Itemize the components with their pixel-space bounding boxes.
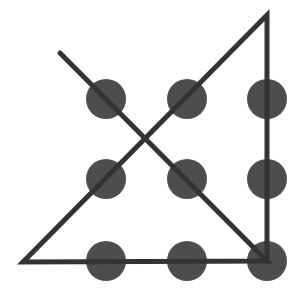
diagram-canvas [0,0,308,295]
solution-line-path [23,15,267,262]
nine-dots-diagram [0,0,308,295]
